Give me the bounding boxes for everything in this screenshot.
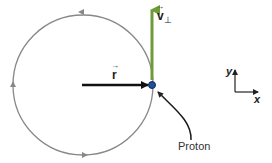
velocity-label: v⊥ xyxy=(157,10,172,25)
x-axis-label: x xyxy=(254,94,260,105)
direction-marker-bottom-icon xyxy=(82,152,88,158)
proton-label: Proton xyxy=(178,141,210,152)
direction-marker-top-icon xyxy=(78,9,84,15)
diagram-canvas xyxy=(0,0,272,163)
radius-symbol: r xyxy=(112,69,117,81)
y-axis-label: y xyxy=(226,66,232,77)
radius-label: r xyxy=(112,69,117,81)
velocity-symbol: v xyxy=(157,10,164,22)
velocity-subscript: ⊥ xyxy=(164,15,172,25)
proton-dot xyxy=(149,82,156,89)
direction-marker-left-icon xyxy=(10,81,16,87)
proton-pointer-line xyxy=(158,92,191,140)
